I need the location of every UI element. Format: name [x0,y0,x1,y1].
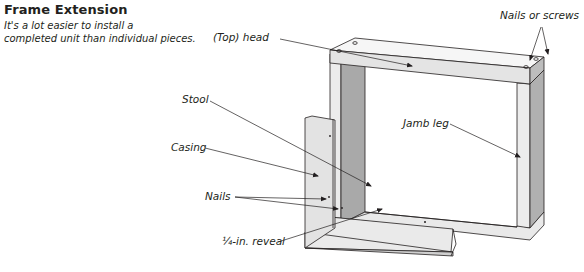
frame-extension-illustration [0,0,584,272]
label-casing: Casing [171,141,206,153]
label-jamb-leg: Jamb leg [403,117,449,129]
label-reveal: ¼-in. reveal [222,235,285,247]
jamb-leg-leader [450,124,520,157]
right-jamb-leg [517,70,544,228]
casing-leader [205,148,318,176]
nails-or-screws-leader-2 [542,27,548,54]
label-nails: Nails [205,190,231,202]
casing-board [305,116,335,248]
nails-or-screws-leader-1 [530,27,541,60]
label-nails-or-screws: Nails or screws [500,9,579,21]
label-head: (Top) head [213,31,269,43]
label-stool: Stool [182,93,209,105]
